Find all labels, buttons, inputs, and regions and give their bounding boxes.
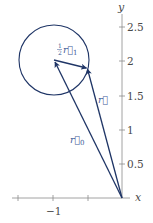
y-tick-label-2: 2 xyxy=(127,55,134,67)
y-tick-label-0.5: 0.5 xyxy=(127,158,144,170)
fraction-numerator: 1 xyxy=(58,42,62,49)
y-tick-label-2.5: 2.5 xyxy=(127,21,144,33)
vector-r0 xyxy=(55,62,122,198)
vector-labels: 1 2 r⃗ 1 r⃗ r⃗ 0 xyxy=(57,42,108,147)
fraction-denominator: 2 xyxy=(58,49,62,56)
x-axis-label: x xyxy=(135,191,142,204)
vectors xyxy=(54,60,122,198)
vector-r xyxy=(88,69,123,198)
label-r: r⃗ xyxy=(98,94,108,105)
half-r1-subscript: 1 xyxy=(73,49,77,57)
vector-diagram: −1 0.5 1 1.5 2 2.5 x y 1 2 r⃗ 1 xyxy=(0,0,153,223)
r0-symbol: r⃗ xyxy=(70,134,80,145)
label-r0: r⃗ 0 xyxy=(70,134,84,147)
r0-subscript: 0 xyxy=(80,139,84,147)
y-tick-label-1: 1 xyxy=(127,124,134,136)
y-axis-label: y xyxy=(117,1,125,14)
label-half-r1: 1 2 r⃗ 1 xyxy=(57,42,77,57)
x-tick-label-neg1: −1 xyxy=(46,205,61,217)
half-r1-symbol: r⃗ xyxy=(63,44,73,55)
y-tick-label-1.5: 1.5 xyxy=(127,90,144,102)
diagram-canvas: −1 0.5 1 1.5 2 2.5 x y 1 2 r⃗ 1 xyxy=(0,0,153,223)
vector-half-r1 xyxy=(54,60,87,68)
